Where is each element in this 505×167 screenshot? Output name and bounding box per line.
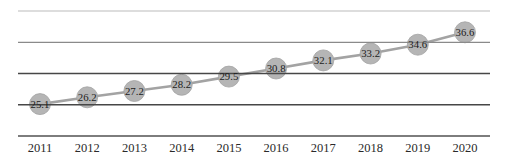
data-point-label: 32.1 [314,54,333,66]
x-axis-tick-label: 2014 [169,141,195,155]
x-axis-tick-label: 2012 [75,141,100,155]
x-axis-tick-label: 2019 [405,141,430,155]
x-axis-tick-label: 2017 [311,141,336,155]
data-point-label: 34.6 [408,38,427,50]
data-point-label: 33.2 [361,47,380,59]
x-axis-tick-label: 2015 [216,141,241,155]
x-axis-tick-label: 2013 [122,141,147,155]
x-axis-tick-label: 2018 [358,141,383,155]
x-axis-tick-label: 2016 [264,141,289,155]
data-point-label: 27.2 [125,85,144,97]
data-point-label: 29.5 [219,70,238,82]
x-axis-tick-label: 2020 [453,141,478,155]
data-point-label: 30.8 [267,62,286,74]
line-chart-svg: 25.126.227.228.229.530.832.133.234.636.6… [0,0,505,167]
data-point-label: 26.2 [78,91,97,103]
chart-figure: 25.126.227.228.229.530.832.133.234.636.6… [0,0,505,167]
data-point-label: 36.6 [456,26,475,38]
series-line [40,32,465,104]
data-point-label: 28.2 [172,78,191,90]
data-point-label: 25.1 [31,98,50,110]
x-axis-tick-label: 2011 [28,141,53,155]
